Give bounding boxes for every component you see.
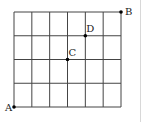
point-a-dot bbox=[12, 105, 16, 109]
point-c-dot bbox=[66, 58, 70, 62]
point-b-dot bbox=[119, 10, 123, 14]
panel-border bbox=[140, 0, 141, 122]
point-a-label: A bbox=[4, 102, 13, 113]
point-b-label: B bbox=[125, 6, 132, 17]
point-d-label: D bbox=[86, 23, 94, 34]
point-c-label: C bbox=[69, 47, 77, 58]
point-d-dot bbox=[84, 34, 88, 38]
grid-diagram: ABCD bbox=[0, 0, 145, 122]
